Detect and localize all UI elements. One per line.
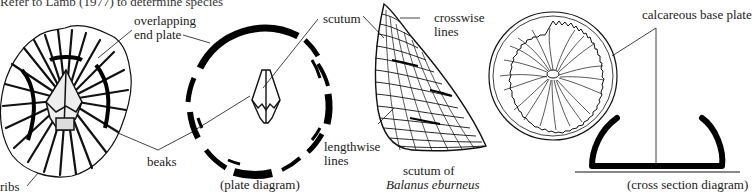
label-overlapping-end-plate-line2: end plate xyxy=(134,28,181,42)
caption-species-name: Balanus eburneus xyxy=(386,178,480,192)
plate-diagram-ring xyxy=(188,28,329,175)
label-calcareous-base-plate: calcareous base plate xyxy=(642,8,752,22)
label-overlapping-end-plate-line1: overlapping xyxy=(134,14,196,28)
label-ribs: ribs xyxy=(0,180,20,194)
label-crosswise-lines-line2: lines xyxy=(434,25,459,39)
operculum-diamond xyxy=(252,70,280,123)
label-lengthwise-lines-line2: lines xyxy=(324,154,349,168)
label-scutum: scutum xyxy=(323,12,361,26)
label-crosswise-lines-line1: crosswise xyxy=(434,11,485,25)
barnacle-top-view-illustration xyxy=(0,26,131,177)
cross-section-diagram xyxy=(575,118,740,172)
caption-plate-diagram: (plate diagram) xyxy=(220,178,300,192)
scutum-illustration xyxy=(375,4,486,151)
base-plate-top-view xyxy=(489,12,617,140)
label-lengthwise-lines-line1: lengthwise xyxy=(324,140,380,154)
caption-scutum-of: scutum of xyxy=(403,164,455,178)
label-beaks: beaks xyxy=(147,155,177,169)
caption-cross-section-diagram: (cross section diagram) xyxy=(627,178,748,192)
